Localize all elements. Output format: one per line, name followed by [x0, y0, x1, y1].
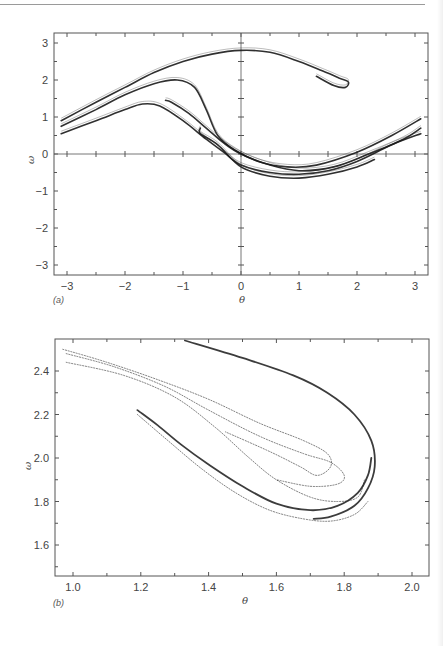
- x-tick-label: 2.0: [404, 581, 419, 593]
- chart-b-ticks: [55, 339, 429, 576]
- chart-b-data-points: [63, 341, 375, 522]
- phase-portrait-chart-b: 1.01.21.41.61.82.02.42.22.01.81.6 ω θ (b…: [0, 0, 443, 646]
- chart-b-ylabel: ω: [22, 462, 33, 470]
- chart-b-tick-labels: 1.01.21.41.61.82.02.42.22.01.81.6: [34, 365, 420, 593]
- attractor-strand: [66, 354, 344, 487]
- y-tick-label: 2.0: [34, 452, 49, 464]
- y-tick-label: 1.6: [34, 539, 49, 551]
- chart-b-xlabel: θ: [242, 595, 248, 606]
- x-tick-label: 1.2: [133, 581, 148, 593]
- y-tick-label: 1.8: [34, 496, 49, 508]
- chart-b-frame: [55, 339, 429, 576]
- y-tick-label: 2.4: [34, 365, 49, 377]
- x-tick-label: 1.0: [65, 581, 80, 593]
- x-tick-label: 1.6: [269, 581, 284, 593]
- y-tick-label: 2.2: [34, 409, 49, 421]
- attractor-strand: [185, 341, 375, 519]
- attractor-strand: [66, 362, 364, 501]
- attractor-strand: [137, 410, 371, 510]
- chart-b-panel-label: (b): [53, 598, 64, 608]
- x-tick-label: 1.4: [201, 581, 216, 593]
- x-tick-label: 1.8: [337, 581, 352, 593]
- attractor-strand: [137, 415, 368, 522]
